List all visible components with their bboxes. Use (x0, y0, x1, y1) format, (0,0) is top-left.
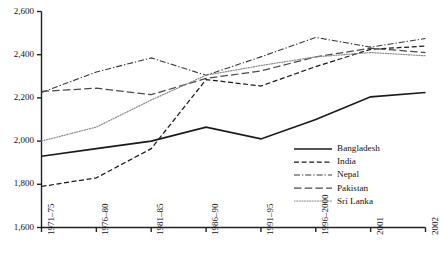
series-line-nepal (42, 37, 426, 92)
legend-label: Bangladesh (337, 144, 380, 153)
legend-swatch-icon (294, 157, 332, 167)
legend-label: Pakistan (337, 184, 368, 193)
legend-label: India (337, 157, 356, 166)
legend-item-bangladesh[interactable]: Bangladesh (294, 142, 380, 155)
legend-swatch-icon (294, 196, 332, 206)
x-tick-label: 1971–75 (46, 203, 56, 235)
series-line-sri-lanka (42, 53, 426, 142)
x-tick-label: 2002 (430, 217, 440, 235)
x-tick-label: 1976–80 (100, 203, 110, 235)
legend-label: Sri Lanka (337, 197, 373, 206)
y-tick-label: 2,400 (0, 49, 34, 59)
y-tick-label: 2,000 (0, 135, 34, 145)
x-tick-label: 1986–90 (210, 203, 220, 235)
legend-swatch-icon (294, 183, 332, 193)
y-tick-label: 1,800 (0, 178, 34, 188)
legend-swatch-icon (294, 170, 332, 180)
x-tick-label: 1981–85 (155, 203, 165, 235)
legend-item-pakistan[interactable]: Pakistan (294, 182, 380, 195)
legend-item-nepal[interactable]: Nepal (294, 168, 380, 181)
x-tick-label: 2001 (375, 217, 385, 235)
chart-legend: BangladeshIndiaNepalPakistanSri Lanka (294, 142, 380, 208)
legend-item-india[interactable]: India (294, 155, 380, 168)
legend-item-sri-lanka[interactable]: Sri Lanka (294, 195, 380, 208)
legend-label: Nepal (337, 170, 359, 179)
legend-swatch-icon (294, 144, 332, 154)
y-tick-label: 2,200 (0, 92, 34, 102)
y-tick-label: 2,600 (0, 6, 34, 16)
x-tick-label: 1991–95 (265, 203, 275, 235)
y-tick-label: 1,600 (0, 222, 34, 232)
